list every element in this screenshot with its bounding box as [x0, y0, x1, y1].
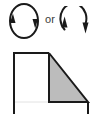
rectangle-with-shaded-triangular-face [0, 44, 95, 114]
clockwise-rotation-closed-circle-icon [6, 1, 42, 41]
diagram-root: or [0, 0, 95, 114]
or-connector-label: or [42, 11, 58, 27]
rotation-symbols-row: or [0, 0, 95, 44]
white-front-face [15, 54, 49, 114]
clockwise-rotation-open-arc-icon [58, 6, 94, 40]
